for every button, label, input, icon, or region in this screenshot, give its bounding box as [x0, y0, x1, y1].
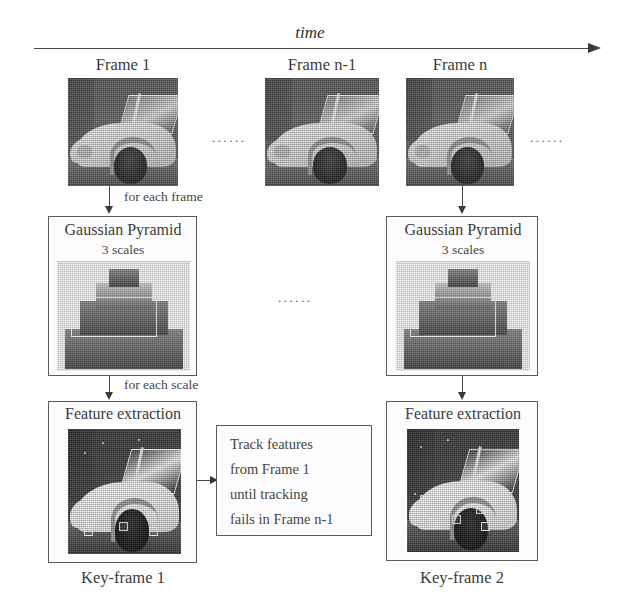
feature-marker: [149, 527, 158, 536]
edge-frame1-to-pyramid-arrow-icon: [105, 206, 113, 214]
edge-label-for-each-scale: for each scale: [124, 378, 198, 392]
frame-label-2: Frame n-1: [288, 57, 356, 74]
gaussian-pyramid-box-1: Gaussian Pyramid 3 scales: [48, 216, 197, 376]
feature-marker: [93, 504, 102, 513]
feature-marker: [481, 522, 490, 531]
feature-extraction-box-1: Feature extraction: [48, 401, 197, 563]
feature-extraction-box-2: Feature extraction: [386, 401, 538, 561]
gaussian-pyramid-subtitle-2: 3 scales: [442, 243, 484, 257]
ellipsis-after-frame-n: ......: [530, 130, 565, 146]
feature-marker: [418, 508, 427, 517]
ellipsis-middle-row: ......: [278, 290, 313, 306]
feature-extraction-title-1: Feature extraction: [65, 406, 181, 422]
gaussian-pyramid-title-1: Gaussian Pyramid: [65, 222, 182, 238]
frame-image-2: [265, 78, 379, 186]
tracking-note-line-4: fails in Frame n-1: [230, 512, 334, 527]
frame-label-3: Frame n: [433, 57, 488, 74]
tracking-note-line-3: until tracking: [230, 487, 308, 502]
ellipsis-after-frame-1: ......: [212, 130, 247, 146]
gaussian-pyramid-image-2: [396, 261, 530, 371]
edge-framen-to-pyramid-arrow-icon: [458, 206, 466, 214]
feature-extraction-image-2: [407, 429, 519, 552]
feature-marker: [119, 522, 128, 531]
feature-extraction-image-1: [68, 429, 181, 554]
edge-pyramid2-to-feature-arrow-icon: [458, 392, 466, 400]
time-axis-line: [34, 48, 590, 49]
keyframe-label-2: Key-frame 2: [420, 570, 504, 587]
keyframe-label-1: Key-frame 1: [81, 570, 165, 587]
frame-image-3: [406, 78, 514, 186]
feature-marker: [84, 527, 93, 536]
time-axis-arrow-icon: [588, 43, 601, 53]
time-axis-label: time: [295, 24, 324, 41]
feature-marker: [147, 512, 156, 521]
feature-marker: [452, 515, 461, 524]
edge-framen-to-pyramid-line: [462, 186, 463, 208]
gaussian-pyramid-title-2: Gaussian Pyramid: [405, 222, 522, 238]
tracking-note-box: Track features from Frame 1 until tracki…: [216, 425, 372, 536]
feature-marker: [420, 495, 429, 504]
tracking-note-line-2: from Frame 1: [230, 462, 310, 477]
figure-canvas: time Frame 1 ...... Frame n-1 Frame n: [0, 0, 628, 614]
tracking-note-line-1: Track features: [230, 437, 313, 452]
feature-marker: [429, 518, 438, 527]
edge-pyramid1-to-feature-arrow-icon: [105, 392, 113, 400]
feature-marker: [476, 505, 485, 514]
gaussian-pyramid-image-1: [57, 261, 190, 371]
gaussian-pyramid-subtitle-1: 3 scales: [102, 243, 144, 257]
edge-label-for-each-frame: for each frame: [124, 190, 203, 204]
feature-extraction-title-2: Feature extraction: [405, 406, 521, 422]
feature-marker: [86, 517, 95, 526]
frame-label-1: Frame 1: [96, 57, 151, 74]
edge-frame1-to-pyramid-line: [109, 186, 110, 208]
frame-image-1: [68, 78, 178, 186]
gaussian-pyramid-box-2: Gaussian Pyramid 3 scales: [386, 216, 538, 376]
